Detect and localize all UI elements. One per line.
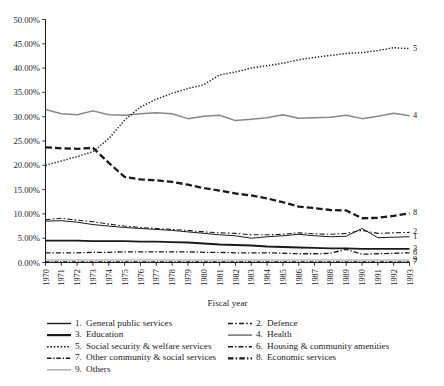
legend-number-1: 1. <box>75 318 82 328</box>
x-tick-label: 1981 <box>216 269 225 286</box>
x-tick-label: 1984 <box>263 268 272 286</box>
y-tick-label: 15.00% <box>14 185 41 195</box>
x-tick-label: 1989 <box>342 269 351 286</box>
series-end-label-4: 4 <box>413 111 418 120</box>
x-tick-label: 1983 <box>247 269 256 286</box>
x-tick-label: 1979 <box>184 269 193 286</box>
legend-label-1: General public services <box>86 318 173 328</box>
legend-number-6: 6. <box>256 341 263 351</box>
x-tick-label: 1986 <box>295 269 304 286</box>
legend-label-7: Other community & social services <box>86 352 217 362</box>
series-end-label-2: 2 <box>413 227 417 236</box>
x-tick-label: 1974 <box>105 268 114 286</box>
percentage-of-expenditure-line-chart: 50.00%45.00%40.00%35.00%30.00%25.00%20.0… <box>0 0 444 386</box>
x-tick-label: 1993 <box>406 269 415 286</box>
y-tick-label: 20.00% <box>14 160 41 170</box>
x-tick-label: 1991 <box>374 269 383 286</box>
y-tick-label: 45.00% <box>14 39 41 49</box>
x-axis: 1970197119721973197419751976197719781979… <box>42 263 415 286</box>
chart-container: 50.00%45.00%40.00%35.00%30.00%25.00%20.0… <box>0 0 444 386</box>
x-tick-label: 1977 <box>152 269 161 286</box>
legend-number-4: 4. <box>256 329 263 339</box>
legend-number-2: 2. <box>256 318 263 328</box>
chart-legend: 1.General public services2.Defence3.Educ… <box>47 318 390 374</box>
x-tick-label: 1972 <box>73 269 82 286</box>
x-tick-label: 1992 <box>390 269 399 286</box>
x-tick-label: 1970 <box>42 269 51 286</box>
legend-label-5: Social security & welfare services <box>86 341 212 351</box>
x-tick-label: 1985 <box>279 269 288 286</box>
y-tick-label: 10.00% <box>14 209 41 219</box>
series-end-labels: 123456789 <box>413 44 418 266</box>
x-tick-label: 1976 <box>137 269 146 286</box>
x-tick-label: 1973 <box>89 269 98 286</box>
legend-number-5: 5. <box>75 341 82 351</box>
series-line-6 <box>46 249 410 254</box>
y-tick-label: 0.00% <box>18 258 40 268</box>
y-tick-label: 30.00% <box>14 112 41 122</box>
x-tick-label: 1980 <box>200 269 209 286</box>
legend-number-9: 9. <box>75 364 82 374</box>
x-axis-title: Fiscal year <box>207 298 247 308</box>
series-end-label-5: 5 <box>413 44 417 53</box>
x-axis-title-text: Fiscal year <box>207 298 247 308</box>
series-lines <box>46 48 410 262</box>
x-tick-label: 1975 <box>121 269 130 286</box>
series-line-8 <box>46 147 410 218</box>
series-end-label-9: 9 <box>413 255 417 264</box>
legend-label-3: Education <box>86 329 124 339</box>
x-tick-label: 1990 <box>358 269 367 286</box>
series-line-3 <box>46 241 410 249</box>
x-tick-label: 1987 <box>311 269 320 286</box>
series-line-4 <box>46 109 410 120</box>
legend-number-7: 7. <box>75 352 82 362</box>
legend-label-6: Housing & community amenities <box>267 341 390 351</box>
y-tick-label: 50.00% <box>14 15 41 25</box>
y-tick-label: 35.00% <box>14 87 41 97</box>
y-tick-label: 40.00% <box>14 63 41 73</box>
legend-number-3: 3. <box>75 329 82 339</box>
legend-label-4: Health <box>267 329 292 339</box>
y-tick-label: 5.00% <box>18 233 40 243</box>
legend-number-8: 8. <box>256 352 263 362</box>
x-tick-label: 1971 <box>57 269 66 286</box>
y-tick-label: 25.00% <box>14 136 41 146</box>
series-line-5 <box>46 48 410 166</box>
legend-label-9: Others <box>86 364 111 374</box>
legend-label-8: Economic services <box>267 352 337 362</box>
y-axis: 50.00%45.00%40.00%35.00%30.00%25.00%20.0… <box>14 15 46 268</box>
x-tick-label: 1988 <box>326 269 335 286</box>
legend-label-2: Defence <box>267 318 298 328</box>
x-tick-label: 1982 <box>232 269 241 286</box>
series-end-label-8: 8 <box>413 208 417 217</box>
x-tick-label: 1978 <box>168 269 177 286</box>
